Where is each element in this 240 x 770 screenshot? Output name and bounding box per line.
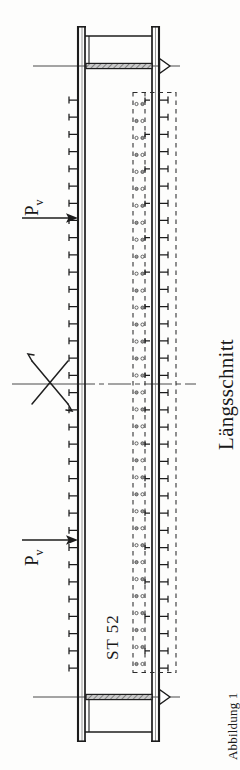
bolt-hole [141, 153, 144, 156]
stud-marker [69, 234, 78, 241]
bolt-hole [141, 136, 144, 139]
bolt-hole [135, 459, 138, 462]
stud-marker [159, 458, 168, 465]
bottom-load-arrow [22, 535, 78, 545]
bolt-hole [135, 204, 138, 207]
stud-marker [159, 613, 168, 620]
section-title-label: Längsschnitt [216, 339, 237, 450]
stud-marker [145, 201, 150, 206]
stud-marker [159, 269, 168, 276]
stud-marker [159, 355, 168, 362]
bolt-hole [141, 119, 144, 122]
stud-marker [69, 665, 78, 672]
stud-marker [69, 252, 78, 259]
bolt-hole [135, 153, 138, 156]
stud-marker [159, 441, 168, 448]
bolt-hole [141, 357, 144, 360]
bolt-hole [141, 340, 144, 343]
stud-marker [145, 579, 150, 584]
bolt-hole [141, 187, 144, 190]
material-grade-label: ST 52 [104, 614, 121, 660]
bolt-hole [135, 391, 138, 394]
bolt-hole [141, 255, 144, 258]
stud-marker [69, 492, 78, 499]
bolt-hole [135, 221, 138, 224]
stud-marker [145, 132, 150, 137]
bolt-hole [135, 493, 138, 496]
stud-marker [159, 200, 168, 207]
stud-marker [159, 579, 168, 586]
stud-marker [145, 338, 150, 343]
stud-marker [69, 269, 78, 276]
stud-marker [69, 148, 78, 155]
stud-marker [159, 131, 168, 138]
stud-marker [69, 596, 78, 603]
bolt-hole [141, 476, 144, 479]
stud-marker [145, 407, 150, 412]
bolt-hole [141, 544, 144, 547]
bolt-hole [135, 255, 138, 258]
stud-marker [159, 338, 168, 345]
stud-marker [159, 165, 168, 172]
stud-marker [159, 252, 168, 259]
stud-marker [69, 131, 78, 138]
bolt-hole [135, 442, 138, 445]
force-symbol-top: P [21, 205, 42, 216]
stud-marker [159, 234, 168, 241]
bolt-hole [135, 374, 138, 377]
stud-marker [145, 614, 150, 619]
stud-marker [159, 372, 168, 379]
stud-marker [69, 579, 78, 586]
stud-marker [69, 544, 78, 551]
bottom-triangle-support [160, 690, 171, 705]
stud-marker [145, 476, 150, 481]
stud-marker [69, 441, 78, 448]
bolt-hole [141, 272, 144, 275]
force-subscript-top: v [32, 199, 46, 205]
bolt-hole [135, 595, 138, 598]
bolt-hole [141, 595, 144, 598]
stud-marker [159, 475, 168, 482]
force-subscript-bottom: v [32, 549, 46, 555]
bolt-hole [141, 238, 144, 241]
bolt-hole [135, 645, 138, 648]
stud-marker [145, 442, 150, 447]
stud-marker [159, 114, 168, 121]
stud-marker [69, 338, 78, 345]
bolt-hole [141, 442, 144, 445]
bolt-hole [135, 119, 138, 122]
stud-marker [69, 389, 78, 396]
stud-marker [69, 647, 78, 654]
stud-marker [159, 303, 168, 310]
stud-marker [69, 355, 78, 362]
stud-marker [159, 510, 168, 517]
stud-marker [159, 389, 168, 396]
bolt-hole [135, 425, 138, 428]
stud-marker [69, 114, 78, 121]
bolt-hole [135, 306, 138, 309]
stud-marker [145, 510, 150, 515]
bolt-hole [135, 170, 138, 173]
bolt-hole [135, 628, 138, 631]
bolt-hole [135, 561, 138, 564]
stud-marker [145, 545, 150, 550]
bolt-hole [135, 238, 138, 241]
bolt-hole [135, 544, 138, 547]
bolt-hole [141, 645, 144, 648]
figure-canvas: Längsschnitt Abbildung 1 ST 52 Pv Pv [0, 0, 240, 770]
bolt-hole [141, 459, 144, 462]
bolt-hole [141, 170, 144, 173]
stud-marker [159, 320, 168, 327]
bolt-hole [135, 357, 138, 360]
stud-marker [145, 648, 150, 653]
force-label-top: Pv [22, 199, 45, 216]
bolt-hole [135, 340, 138, 343]
stud-marker [69, 527, 78, 534]
stud-marker [69, 458, 78, 465]
stud-marker [159, 647, 168, 654]
bolt-hole [135, 187, 138, 190]
stud-marker [69, 613, 78, 620]
bolt-hole [141, 408, 144, 411]
stud-marker [69, 320, 78, 327]
stud-marker [69, 200, 78, 207]
